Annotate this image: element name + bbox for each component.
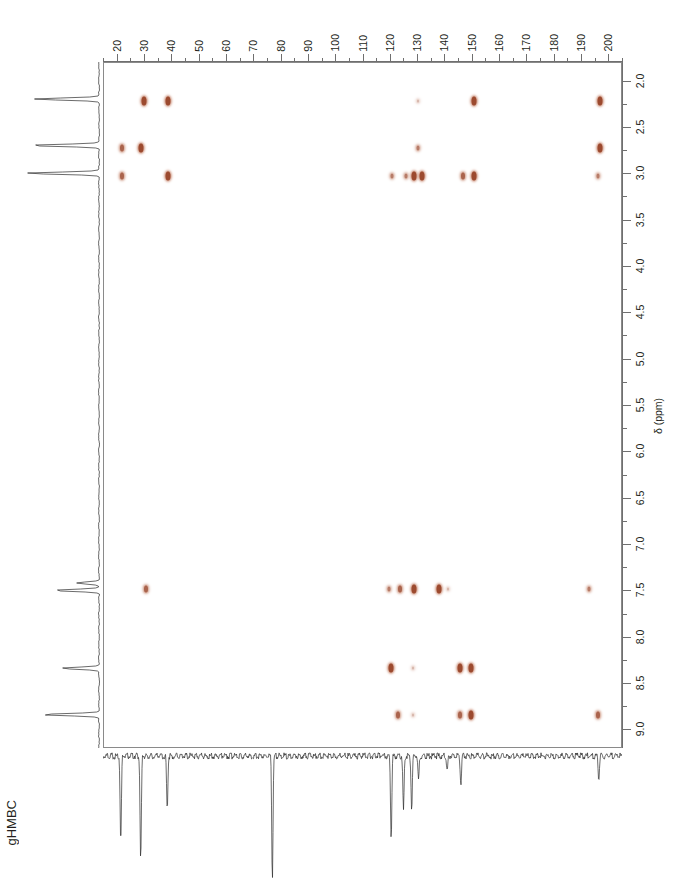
carbon-tick-label: 100: [329, 34, 341, 52]
carbon-tick-major: [608, 54, 609, 62]
cross-peak[interactable]: [469, 664, 474, 673]
cross-peak[interactable]: [412, 172, 417, 181]
cross-peak[interactable]: [597, 97, 602, 106]
proton-tick-minor: [623, 567, 627, 568]
proton-tick-major: [623, 220, 631, 221]
spectrum-plot-area[interactable]: [103, 62, 622, 748]
cross-peak[interactable]: [417, 100, 419, 103]
carbon-tick-label: 140: [438, 34, 450, 52]
proton-tick-label: 7.5: [634, 583, 646, 598]
cross-peak[interactable]: [436, 584, 441, 593]
carbon-tick-major: [363, 54, 364, 62]
cross-peak[interactable]: [391, 174, 394, 179]
carbon-tick-label: 180: [548, 34, 560, 52]
proton-tick-minor: [623, 614, 627, 615]
proton-tick-label: 2.0: [634, 73, 646, 88]
cross-peak[interactable]: [144, 585, 148, 592]
cross-peak[interactable]: [412, 584, 417, 593]
proton-tick-major: [623, 359, 631, 360]
cross-peak[interactable]: [396, 711, 400, 718]
cross-peak[interactable]: [388, 664, 393, 673]
proton-tick-major: [623, 637, 631, 638]
proton-tick-label: 6.5: [634, 490, 646, 505]
cross-peak-layer: [104, 63, 621, 747]
cross-peak[interactable]: [596, 711, 600, 718]
proton-tick-major: [623, 451, 631, 452]
carbon-tick-label: 130: [411, 34, 423, 52]
carbon-tick-label: 200: [602, 34, 614, 52]
carbon-tick-major: [281, 54, 282, 62]
carbon-tick-label: 110: [357, 35, 369, 52]
cross-peak[interactable]: [472, 97, 477, 106]
cross-peak[interactable]: [458, 711, 462, 718]
experiment-label: gHMBC: [4, 800, 19, 846]
proton-tick-label: 9.0: [634, 722, 646, 737]
carbon-tick-major: [226, 54, 227, 62]
proton-tick-major: [623, 81, 631, 82]
proton-tick-major: [623, 266, 631, 267]
proton-tick-major: [623, 590, 631, 591]
carbon-tick-major: [171, 54, 172, 62]
cross-peak[interactable]: [461, 173, 465, 180]
cross-peak[interactable]: [412, 667, 414, 670]
proton-tick-label: 3.5: [634, 212, 646, 227]
proton-tick-minor: [623, 382, 627, 383]
proton-tick-minor: [623, 660, 627, 661]
carbon-tick-major: [253, 54, 254, 62]
carbon-tick-major: [308, 54, 309, 62]
proton-tick-major: [623, 173, 631, 174]
carbon-tick-label: 40: [165, 40, 177, 52]
cross-peak[interactable]: [412, 713, 414, 716]
carbon-tick-major: [199, 54, 200, 62]
cross-peak[interactable]: [166, 172, 171, 181]
cross-peak[interactable]: [138, 144, 143, 153]
carbon-tick-label: 30: [138, 40, 150, 52]
cross-peak[interactable]: [120, 145, 124, 152]
proton-tick-minor: [623, 475, 627, 476]
proton-tick-label: 4.0: [634, 259, 646, 274]
cross-peak[interactable]: [472, 172, 477, 181]
carbon-tick-label: 60: [220, 40, 232, 52]
carbon-tick-major: [335, 54, 336, 62]
proton-tick-minor: [623, 335, 627, 336]
cross-peak[interactable]: [420, 172, 425, 181]
carbon-tick-major: [554, 54, 555, 62]
carbon-tick-label: 150: [466, 34, 478, 52]
cross-peak[interactable]: [120, 173, 124, 180]
proton-tick-label: 7.0: [634, 537, 646, 552]
proton-projection-path: [28, 62, 100, 748]
proton-tick-minor: [623, 104, 627, 105]
cross-peak[interactable]: [597, 144, 602, 153]
cross-peak[interactable]: [587, 586, 590, 591]
proton-tick-minor: [623, 196, 627, 197]
cross-peak[interactable]: [398, 585, 402, 592]
cross-peak[interactable]: [417, 146, 420, 151]
proton-axis: δ (ppm) 2.02.53.03.54.04.55.05.56.06.57.…: [622, 62, 679, 748]
carbon-tick-label: 80: [275, 40, 287, 52]
carbon-tick-label: 90: [302, 40, 314, 52]
proton-tick-major: [623, 498, 631, 499]
proton-tick-label: 4.5: [634, 305, 646, 320]
carbon-tick-label: 160: [493, 34, 505, 52]
cross-peak[interactable]: [458, 664, 463, 673]
proton-tick-minor: [623, 706, 627, 707]
proton-tick-minor: [623, 150, 627, 151]
cross-peak[interactable]: [597, 174, 600, 179]
cross-peak[interactable]: [141, 97, 146, 106]
carbon-tick-major: [526, 54, 527, 62]
proton-tick-minor: [623, 521, 627, 522]
proton-tick-minor: [623, 289, 627, 290]
carbon-tick-label: 50: [193, 40, 205, 52]
cross-peak[interactable]: [447, 587, 449, 590]
carbon-axis: 2030405060708090100110120130140150160170…: [103, 38, 622, 62]
cross-peak[interactable]: [469, 710, 474, 719]
cross-peak[interactable]: [404, 174, 407, 179]
carbon-tick-label: 70: [247, 40, 259, 52]
proton-tick-label: 3.0: [634, 166, 646, 181]
proton-axis-title: δ (ppm): [652, 398, 664, 434]
cross-peak[interactable]: [166, 97, 171, 106]
carbon-projection-path: [103, 753, 622, 878]
proton-tick-major: [623, 729, 631, 730]
proton-tick-major: [623, 405, 631, 406]
cross-peak[interactable]: [388, 586, 391, 591]
